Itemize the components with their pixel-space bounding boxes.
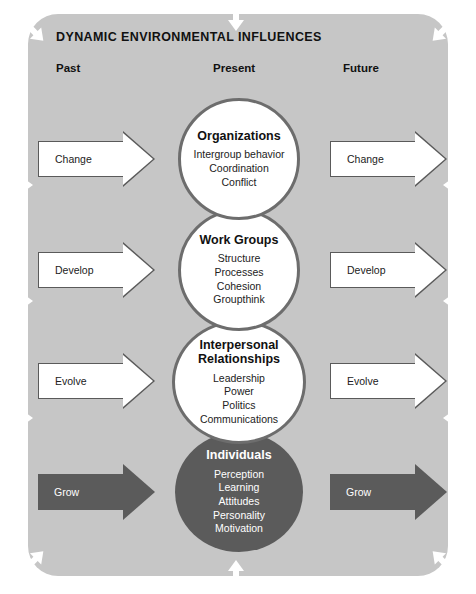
past-arrow-individuals[interactable]: Grow bbox=[38, 464, 155, 520]
future-arrow-individuals[interactable]: Grow bbox=[330, 464, 447, 520]
past-arrow-interpersonal-relationships[interactable]: Evolve bbox=[38, 353, 155, 409]
diagram-canvas: DYNAMIC ENVIRONMENTAL INFLUENCES Past Pr… bbox=[0, 0, 476, 594]
node-item: Intergroup behavior bbox=[193, 148, 284, 162]
node-item: Motivation bbox=[213, 522, 265, 536]
node-item: Conflict bbox=[193, 176, 284, 190]
page-title: DYNAMIC ENVIRONMENTAL INFLUENCES bbox=[56, 30, 322, 44]
env-arrow-left-middle bbox=[8, 293, 33, 309]
future-arrow-label-1: Develop bbox=[347, 264, 386, 276]
column-label-future: Future bbox=[343, 62, 379, 74]
past-arrow-label-0: Change bbox=[55, 153, 92, 165]
env-arrow-left-upper bbox=[8, 177, 33, 193]
future-arrow-label-3: Grow bbox=[346, 486, 371, 498]
node-item: Politics bbox=[200, 399, 278, 413]
past-arrow-label-2: Evolve bbox=[55, 375, 87, 387]
node-item: Processes bbox=[213, 266, 264, 280]
node-item: Cohesion bbox=[213, 280, 264, 294]
past-arrow-label-1: Develop bbox=[55, 264, 94, 276]
node-item: Groupthink bbox=[213, 293, 264, 307]
node-item: Perception bbox=[213, 468, 265, 482]
node-items-organizations: Intergroup behavior Coordination Conflic… bbox=[193, 148, 284, 189]
past-arrow-work-groups[interactable]: Develop bbox=[38, 242, 155, 298]
column-label-present: Present bbox=[213, 62, 255, 74]
future-arrow-work-groups[interactable]: Develop bbox=[330, 242, 447, 298]
node-title-line: Interpersonal bbox=[198, 338, 280, 352]
node-item: Structure bbox=[213, 252, 264, 266]
node-item: Leadership bbox=[200, 372, 278, 386]
past-arrow-organizations[interactable]: Change bbox=[38, 131, 155, 187]
past-arrow-label-3: Grow bbox=[54, 486, 79, 498]
env-arrow-right-middle bbox=[443, 293, 468, 309]
node-interpersonal-relationships[interactable]: Interpersonal Relationships Leadership P… bbox=[172, 320, 306, 444]
node-title-organizations: Organizations bbox=[197, 129, 280, 143]
node-title-work-groups: Work Groups bbox=[200, 233, 279, 247]
node-item: Coordination bbox=[193, 162, 284, 176]
env-arrow-top-center bbox=[228, 6, 244, 31]
future-arrow-label-2: Evolve bbox=[347, 375, 379, 387]
env-arrow-right-lower bbox=[443, 410, 468, 426]
node-item: Communications bbox=[200, 413, 278, 427]
env-arrow-bottom-center bbox=[228, 560, 244, 586]
node-item: Power bbox=[200, 385, 278, 399]
node-items-individuals: Perception Learning Attitudes Personalit… bbox=[213, 468, 265, 536]
node-organizations[interactable]: Organizations Intergroup behavior Coordi… bbox=[178, 98, 300, 220]
future-arrow-label-0: Change bbox=[347, 153, 384, 165]
future-arrow-organizations[interactable]: Change bbox=[330, 131, 447, 187]
node-item: Attitudes bbox=[213, 495, 265, 509]
node-item: Personality bbox=[213, 509, 265, 523]
node-items-interpersonal-relationships: Leadership Power Politics Communications bbox=[200, 372, 278, 427]
future-arrow-interpersonal-relationships[interactable]: Evolve bbox=[330, 353, 447, 409]
node-work-groups[interactable]: Work Groups Structure Processes Cohesion… bbox=[178, 209, 300, 331]
env-arrow-right-upper bbox=[443, 177, 468, 193]
node-items-work-groups: Structure Processes Cohesion Groupthink bbox=[213, 252, 264, 307]
env-arrow-left-lower bbox=[8, 410, 33, 426]
node-individuals[interactable]: Individuals Perception Learning Attitude… bbox=[175, 432, 303, 552]
node-title-individuals: Individuals bbox=[206, 448, 271, 462]
node-title-interpersonal-relationships: Interpersonal Relationships bbox=[198, 338, 280, 367]
column-label-past: Past bbox=[56, 62, 80, 74]
node-item: Learning bbox=[213, 481, 265, 495]
node-title-line: Relationships bbox=[198, 352, 280, 366]
